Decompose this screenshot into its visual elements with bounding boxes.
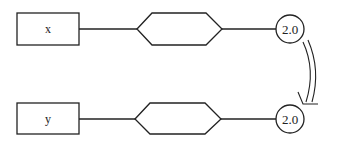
hexagon-node-x	[137, 13, 222, 45]
diagram-canvas: x 2.0 y 2.0	[0, 0, 338, 145]
value-circle-x-label: 2.0	[282, 22, 298, 37]
value-circle-y-label: 2.0	[282, 112, 298, 127]
row-x: x 2.0	[17, 13, 304, 45]
double-arrow-icon	[298, 40, 318, 104]
variable-box-x-label: x	[45, 22, 51, 36]
variable-box-y-label: y	[45, 112, 51, 126]
row-y: y 2.0	[17, 103, 304, 134]
hexagon-node-y	[135, 103, 221, 134]
